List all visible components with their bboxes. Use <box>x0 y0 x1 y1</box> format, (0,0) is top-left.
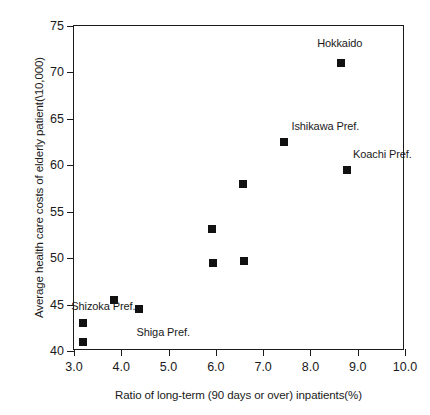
y-tick-mark <box>67 26 74 27</box>
point-label: Hokkaido <box>317 37 362 49</box>
x-tick-label: 7.0 <box>254 360 271 374</box>
point-label: Shiga Pref. <box>137 326 190 338</box>
y-tick-label: 75 <box>50 19 64 33</box>
data-point-marker <box>240 257 248 265</box>
x-axis-title: Ratio of long-term (90 days or over) inp… <box>73 389 404 401</box>
data-point-marker <box>239 180 247 188</box>
x-tick-mark <box>263 349 264 356</box>
y-tick-mark <box>67 165 74 166</box>
point-label: Koachi Pref. <box>353 148 412 160</box>
y-tick-mark <box>67 119 74 120</box>
x-tick-label: 6.0 <box>207 360 224 374</box>
data-point-marker <box>79 338 87 346</box>
y-tick-label: 60 <box>50 158 64 172</box>
point-label: Shizoka Pref. <box>71 300 135 312</box>
data-point-marker <box>343 166 351 174</box>
y-tick-label: 40 <box>50 344 64 358</box>
data-point-marker <box>208 225 216 233</box>
data-point-marker <box>135 305 143 313</box>
x-tick-label: 10.0 <box>393 360 417 374</box>
data-point-marker <box>337 59 345 67</box>
y-tick-label: 50 <box>50 251 64 265</box>
x-tick-mark <box>358 349 359 356</box>
x-tick-mark <box>121 349 122 356</box>
data-point-marker <box>209 259 217 267</box>
x-tick-mark <box>216 349 217 356</box>
y-tick-label: 65 <box>50 112 64 126</box>
x-tick-label: 5.0 <box>160 360 177 374</box>
data-point-marker <box>79 319 87 327</box>
y-tick-mark <box>67 212 74 213</box>
x-tick-label: 8.0 <box>302 360 319 374</box>
x-tick-label: 4.0 <box>113 360 130 374</box>
plot-area: 4045505560657075 3.04.05.06.07.08.09.010… <box>73 25 404 350</box>
point-label: Ishikawa Pref. <box>292 120 360 132</box>
x-tick-label: 3.0 <box>65 360 82 374</box>
y-tick-mark <box>67 72 74 73</box>
scatter-chart-figure: Average health care costs of elderly pat… <box>0 0 430 415</box>
data-point-marker <box>280 138 288 146</box>
x-tick-label: 9.0 <box>349 360 366 374</box>
y-tick-label: 45 <box>50 298 64 312</box>
x-tick-mark <box>310 349 311 356</box>
x-tick-mark <box>74 349 75 356</box>
x-tick-mark <box>169 349 170 356</box>
y-tick-mark <box>67 258 74 259</box>
x-tick-mark <box>405 349 406 356</box>
y-tick-label: 70 <box>50 65 64 79</box>
y-axis-title: Average health care costs of elderly pat… <box>26 25 52 350</box>
y-tick-label: 55 <box>50 205 64 219</box>
y-tick-mark <box>67 351 74 352</box>
